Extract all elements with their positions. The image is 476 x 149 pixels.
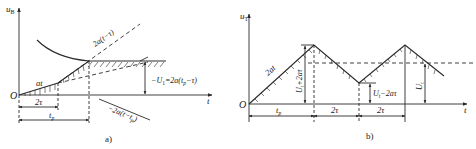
wave-hatch <box>255 49 435 102</box>
y-axis-label-b: uT <box>240 11 249 22</box>
u1-label: −U1=2a(tp−τ) <box>151 76 197 86</box>
triangle-wave <box>249 45 444 104</box>
caption-a: a) <box>105 134 112 144</box>
origin-label-a: O <box>10 90 17 101</box>
dim-2tau-label-b2: 2τ <box>377 105 385 115</box>
dashed-slope-at <box>58 62 148 83</box>
valley-label: Ut−2aτ <box>373 89 398 99</box>
caption-b: b) <box>366 131 374 141</box>
diagram-canvas: uB t O at 2a(t−τ) −2a(t−tp) −U1=2a(tp−τ)… <box>0 0 476 149</box>
peak-label: Ut+2aτ <box>295 68 305 93</box>
slope-label-neg: −2a(t−tp) <box>106 104 139 125</box>
dim-2tau-label-b1: 2τ <box>331 105 339 115</box>
slope-label-at: at <box>36 78 43 88</box>
dim-2tau-label-a: 2τ <box>35 97 43 107</box>
origin-label-b: O <box>239 99 246 110</box>
slope-label-2a: 2a(t−τ) <box>91 27 116 48</box>
curve-end-tick <box>140 57 148 61</box>
dim-tp-label-b: tp <box>276 105 281 116</box>
ut-label: Ut <box>414 82 425 90</box>
y-axis-label-a: uB <box>6 4 15 15</box>
slope-label-2at: 2at <box>263 62 278 77</box>
panel-b <box>249 14 476 122</box>
hatch-segment-2 <box>63 65 84 83</box>
x-axis-label-a: t <box>207 96 210 106</box>
dim-tp-label-a: tp <box>49 110 54 121</box>
threshold-curve <box>37 40 89 61</box>
x-axis-label-b: t <box>464 105 467 115</box>
hatch-flat <box>88 62 164 67</box>
